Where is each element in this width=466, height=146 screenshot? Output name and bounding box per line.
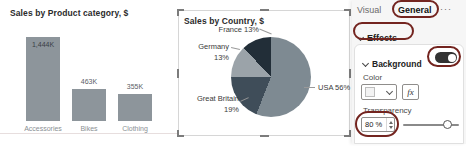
pie-label-great-britain: Great Britain 19% xyxy=(181,93,239,115)
selection-handle-bottom[interactable] xyxy=(260,135,269,137)
pie-chart-visual[interactable]: Sales by Country, $ France 13% Germany 1… xyxy=(178,10,350,136)
selection-handle-left[interactable] xyxy=(177,69,179,78)
bar-chart-visual[interactable]: Sales by Product category, $ 1,444K 463K… xyxy=(0,0,178,134)
more-options-button[interactable]: ··· xyxy=(440,4,452,14)
chevron-down-icon xyxy=(362,60,369,67)
selection-handle-top-left[interactable] xyxy=(177,9,184,16)
background-expander[interactable]: Background xyxy=(363,53,422,71)
spinner-buttons[interactable] xyxy=(386,118,394,131)
leader-line-usa xyxy=(304,87,315,88)
transparency-value: 80 % xyxy=(362,120,386,129)
color-swatch-dropdown[interactable] xyxy=(361,84,397,100)
leader-line-france xyxy=(259,29,271,35)
bar-bikes[interactable]: 463K xyxy=(72,89,106,121)
fx-button[interactable]: fx xyxy=(402,84,419,100)
bar-value-label: 463K xyxy=(72,78,106,85)
bar-chart-title: Sales by Product category, $ xyxy=(10,8,128,18)
selection-handle-right[interactable] xyxy=(349,69,351,78)
background-card: Background Color fx Transparency 80 % xyxy=(354,44,464,144)
transparency-input[interactable]: 80 % xyxy=(361,117,395,132)
effects-expander[interactable]: Effects xyxy=(358,27,397,45)
background-toggle[interactable] xyxy=(435,52,457,63)
effects-label: Effects xyxy=(367,33,397,43)
fx-icon: fx xyxy=(407,87,414,97)
background-label: Background xyxy=(372,59,422,69)
selection-handle-top[interactable] xyxy=(260,9,269,11)
chevron-down-icon xyxy=(386,87,393,94)
selection-handle-bottom-left[interactable] xyxy=(177,130,184,137)
transparency-slider[interactable] xyxy=(403,124,459,126)
bar-clothing[interactable]: 355K xyxy=(118,94,152,121)
bar-value-label: 355K xyxy=(118,83,152,90)
chevron-down-icon xyxy=(357,34,364,41)
tab-visual[interactable]: Visual xyxy=(357,5,381,15)
pie-label-germany: Germany 13% xyxy=(185,41,229,63)
transparency-slider-handle[interactable] xyxy=(443,120,452,129)
bar-accessories[interactable]: 1,444K xyxy=(26,37,60,121)
x-axis-label-clothing: Clothing xyxy=(108,125,162,132)
pie-label-france: France 13% xyxy=(195,24,259,35)
color-label: Color xyxy=(363,73,382,82)
selection-handle-bottom-right[interactable] xyxy=(344,130,351,137)
selection-handle-top-right[interactable] xyxy=(344,9,351,16)
leader-line-germany xyxy=(231,47,240,50)
tab-general[interactable]: General xyxy=(398,5,432,15)
pie-label-usa: USA 56% xyxy=(318,82,350,93)
bar-value-label: 1,444K xyxy=(26,41,60,48)
toggle-knob xyxy=(448,54,456,62)
pie[interactable] xyxy=(231,37,311,117)
transparency-label: Transparency xyxy=(363,106,412,115)
color-swatch xyxy=(365,87,375,97)
format-pane: Visual General ··· Effects Background Co… xyxy=(352,0,466,144)
